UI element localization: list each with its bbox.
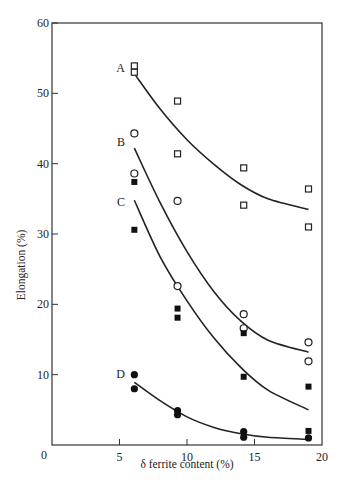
curve-label-c: C — [117, 195, 125, 209]
fit-curve-c — [134, 200, 308, 410]
axis-ticks: 01020304050605101520 — [37, 16, 328, 464]
y-tick-label: 50 — [37, 86, 49, 100]
filled-square-marker — [306, 428, 312, 434]
fit-curve-d — [134, 382, 308, 439]
open-square-marker — [175, 98, 181, 104]
fit-curves — [134, 74, 308, 440]
x-tick-label: 5 — [117, 450, 123, 464]
open-square-marker — [306, 186, 312, 192]
open-square-marker — [131, 69, 137, 75]
open-circle-marker — [131, 170, 138, 177]
open-circle-marker — [240, 311, 247, 318]
open-circle-marker — [174, 197, 181, 204]
filled-square-marker — [241, 330, 247, 336]
open-square-marker — [175, 151, 181, 157]
filled-circle-marker — [240, 434, 247, 441]
y-axis-label: Elongation (%) — [15, 230, 28, 301]
x-tick-label: 20 — [316, 450, 328, 464]
curve-labels: ABCD — [116, 61, 125, 381]
y-tick-label: 10 — [37, 368, 49, 382]
y-tick-label: 20 — [37, 297, 49, 311]
plot-frame — [52, 23, 322, 445]
curve-label-a: A — [116, 61, 125, 75]
open-square-marker — [241, 202, 247, 208]
filled-circle-marker — [131, 385, 138, 392]
open-circle-marker — [174, 283, 181, 290]
x-axis-label: δ ferrite content (%) — [140, 458, 233, 471]
y-tick-label: 30 — [37, 227, 49, 241]
y-tick-label: 60 — [37, 16, 49, 30]
filled-circle-marker — [305, 434, 312, 441]
plot-border — [52, 23, 322, 445]
y-tick-label: 40 — [37, 157, 49, 171]
y-tick-label: 0 — [41, 448, 47, 462]
filled-square-marker — [241, 374, 247, 380]
filled-square-marker — [131, 179, 137, 185]
curve-label-d: D — [116, 367, 125, 381]
open-circle-marker — [131, 130, 138, 137]
filled-square-marker — [175, 306, 181, 312]
filled-square-marker — [175, 315, 181, 321]
x-tick-label: 15 — [249, 450, 261, 464]
open-circle-marker — [305, 358, 312, 365]
chart-canvas: 01020304050605101520 ABCD δ ferrite cont… — [0, 0, 348, 488]
open-square-marker — [241, 165, 247, 171]
fit-curve-b — [134, 148, 308, 352]
filled-circle-marker — [131, 371, 138, 378]
filled-circle-marker — [174, 411, 181, 418]
open-square-marker — [306, 224, 312, 230]
filled-square-marker — [131, 227, 137, 233]
open-circle-marker — [305, 339, 312, 346]
open-square-marker — [131, 63, 137, 69]
curve-label-b: B — [117, 135, 125, 149]
fit-curve-a — [134, 74, 308, 210]
filled-square-marker — [306, 384, 312, 390]
